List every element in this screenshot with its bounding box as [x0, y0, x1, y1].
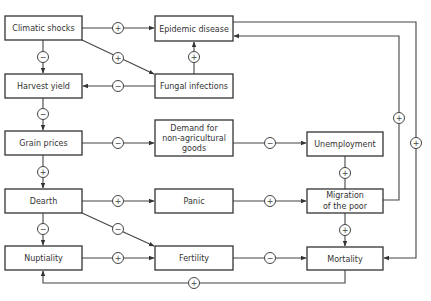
sign-climatic-fungal: +: [113, 53, 124, 64]
sign-migration-mortality: +: [340, 225, 351, 236]
sign-dearth-panic: +: [113, 196, 124, 207]
node-label-line1: Demand for: [170, 124, 218, 133]
sign-fertility-mortality: −: [265, 253, 276, 264]
plus-sign: +: [342, 169, 349, 178]
node-fertility: Fertility: [155, 246, 233, 270]
plus-sign: +: [396, 114, 403, 123]
sign-demand-unemployment: −: [265, 138, 276, 149]
sign-panic-migration: +: [265, 196, 276, 207]
plus-sign: +: [191, 53, 198, 62]
node-mortality: Mortality: [307, 247, 383, 270]
node-epidemic-disease: Epidemic disease: [155, 16, 233, 41]
sign-fungal-epidemic: +: [189, 52, 200, 63]
plus-sign: +: [115, 24, 122, 33]
node-label: Nuptiality: [24, 254, 63, 263]
sign-fungal-harvest: −: [113, 81, 124, 92]
minus-sign: −: [40, 225, 47, 234]
sign-dearth-nuptiality: −: [38, 224, 49, 235]
plus-sign: +: [115, 54, 122, 63]
node-harvest-yield: Harvest yield: [5, 74, 82, 98]
node-label: Panic: [183, 197, 204, 206]
sign-grain-demand: −: [113, 138, 124, 149]
plus-sign: +: [342, 226, 349, 235]
sign-mortality-nuptiality: +: [189, 278, 200, 289]
plus-sign: +: [115, 197, 122, 206]
minus-sign: −: [267, 139, 274, 148]
node-migration-of-the-poor: Migration of the poor: [307, 189, 383, 213]
plus-sign: +: [413, 139, 420, 148]
node-label-line1: Migration: [326, 191, 364, 200]
sign-migration-epidemic: +: [394, 113, 405, 124]
minus-sign: −: [267, 254, 274, 263]
node-demand-non-agricultural-goods: Demand for non-agricultural goods: [155, 120, 233, 156]
node-label: Grain prices: [19, 139, 67, 148]
node-label: Mortality: [327, 255, 363, 264]
sign-climatic-epidemic: +: [113, 23, 124, 34]
node-label: Epidemic disease: [159, 25, 229, 34]
node-panic: Panic: [155, 189, 233, 213]
edge-migration-epidemic: [234, 36, 399, 200]
plus-sign: +: [191, 279, 198, 288]
sign-epidemic-mortality: +: [411, 138, 422, 149]
node-label: Dearth: [30, 197, 57, 206]
node-label-line2: of the poor: [323, 202, 368, 211]
minus-sign: −: [40, 53, 47, 62]
minus-sign: −: [115, 82, 122, 91]
node-label: Harvest yield: [17, 82, 70, 91]
node-label-line2: non-agricultural: [162, 134, 226, 143]
node-label: Unemployment: [314, 140, 376, 149]
node-label: Fertility: [179, 254, 209, 263]
plus-sign: +: [115, 254, 122, 263]
sign-dearth-fertility: −: [113, 224, 124, 235]
node-label: Climatic shocks: [12, 24, 74, 33]
sign-nuptiality-fertility: +: [113, 253, 124, 264]
minus-sign: −: [115, 139, 122, 148]
minus-sign: −: [40, 110, 47, 119]
node-label-line3: goods: [182, 144, 206, 153]
node-nuptiality: Nuptiality: [5, 246, 82, 270]
node-dearth: Dearth: [5, 189, 82, 213]
node-climatic-shocks: Climatic shocks: [5, 16, 82, 40]
plus-sign: +: [267, 197, 274, 206]
minus-sign: −: [115, 225, 122, 234]
node-label: Fungal infections: [160, 82, 228, 91]
sign-unemployment-migration: +: [340, 168, 351, 179]
node-unemployment: Unemployment: [307, 132, 383, 156]
node-grain-prices: Grain prices: [5, 131, 82, 155]
sign-climatic-harvest: −: [38, 52, 49, 63]
sign-harvest-grain: −: [38, 109, 49, 120]
causal-diagram: Climatic shocks Epidemic disease Fungal …: [0, 0, 431, 301]
sign-grain-dearth: +: [38, 167, 49, 178]
plus-sign: +: [40, 168, 47, 177]
node-fungal-infections: Fungal infections: [155, 74, 233, 98]
